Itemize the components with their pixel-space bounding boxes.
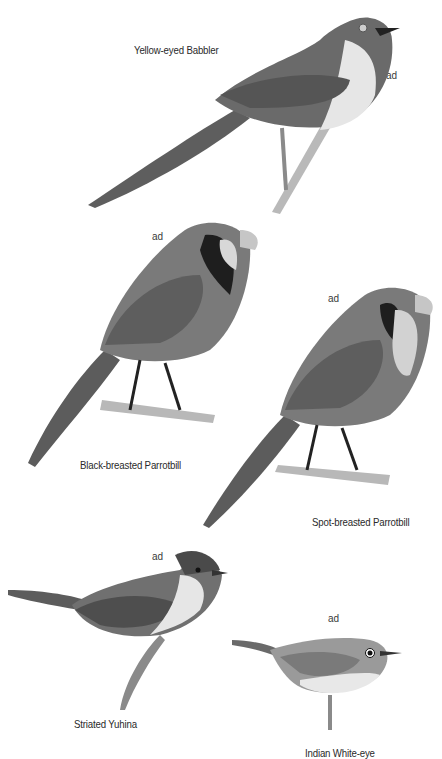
age-label: ad <box>328 613 339 624</box>
spot-breasted-parrotbill-illustration <box>195 280 442 530</box>
indian-white-eye-illustration <box>230 635 405 735</box>
yellow-eyed-babbler-illustration <box>0 0 442 220</box>
species-label-indian-white-eye: Indian White-eye <box>305 747 375 759</box>
species-label-striated-yuhina: Striated Yuhina <box>74 718 137 730</box>
striated-yuhina-illustration <box>0 550 230 710</box>
